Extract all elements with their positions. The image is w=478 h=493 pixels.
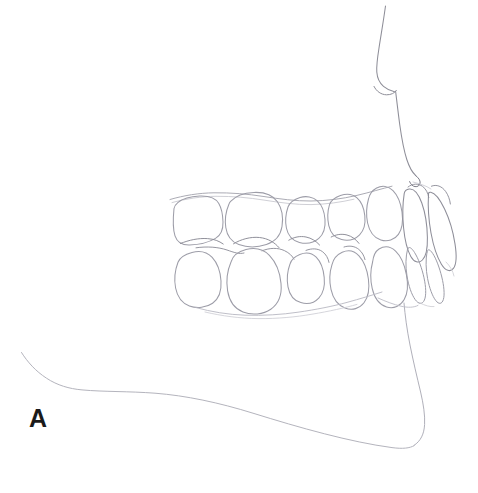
dental-tracing-illustration	[0, 0, 478, 493]
figure-canvas: A	[0, 0, 478, 493]
background	[0, 0, 478, 493]
panel-label-a: A	[29, 406, 47, 431]
